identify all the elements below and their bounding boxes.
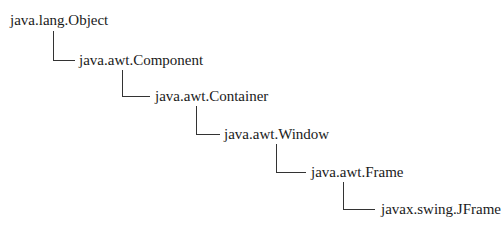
connector-window-frame-horizontal bbox=[276, 172, 306, 173]
node-java-lang-object: java.lang.Object bbox=[10, 12, 108, 28]
node-java-awt-frame: java.awt.Frame bbox=[311, 164, 403, 180]
node-java-awt-container: java.awt.Container bbox=[155, 88, 268, 104]
connector-window-frame-vertical bbox=[276, 144, 277, 172]
connector-object-component-horizontal bbox=[53, 60, 75, 61]
node-java-awt-window: java.awt.Window bbox=[224, 126, 329, 142]
connector-component-container-horizontal bbox=[122, 96, 150, 97]
node-java-awt-component: java.awt.Component bbox=[79, 52, 203, 68]
node-javax-swing-jframe: javax.swing.JFrame bbox=[381, 201, 501, 217]
connector-frame-jframe-vertical bbox=[343, 182, 344, 209]
connector-container-window-horizontal bbox=[196, 134, 220, 135]
connector-frame-jframe-horizontal bbox=[343, 209, 375, 210]
connector-object-component-vertical bbox=[53, 31, 54, 60]
connector-component-container-vertical bbox=[122, 70, 123, 96]
connector-container-window-vertical bbox=[196, 106, 197, 134]
